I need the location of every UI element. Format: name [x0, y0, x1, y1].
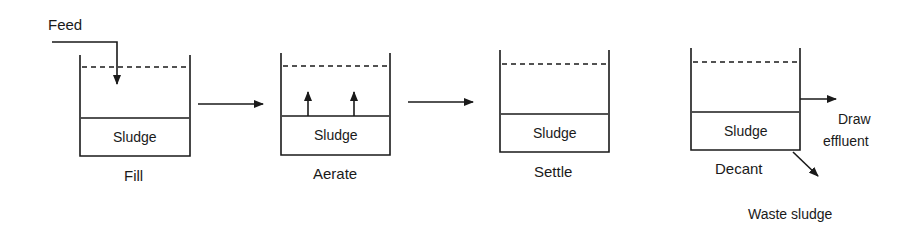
draw-label: Draw [838, 112, 871, 126]
aerate-sludge-label: Sludge [314, 128, 358, 142]
settle-stage-label: Settle [534, 164, 572, 179]
feed-arrow [52, 42, 117, 84]
effluent-label: effluent [823, 134, 869, 148]
fill-stage-label: Fill [124, 168, 143, 183]
decant-sludge-label: Sludge [724, 124, 768, 138]
settle-sludge-label: Sludge [533, 126, 577, 140]
fill-sludge-label: Sludge [113, 130, 157, 144]
waste-sludge-arrow [793, 152, 818, 176]
feed-label: Feed [48, 17, 82, 32]
decant-stage-label: Decant [715, 161, 763, 176]
waste-sludge-label: Waste sludge [748, 207, 832, 221]
aerate-stage-label: Aerate [313, 166, 357, 181]
